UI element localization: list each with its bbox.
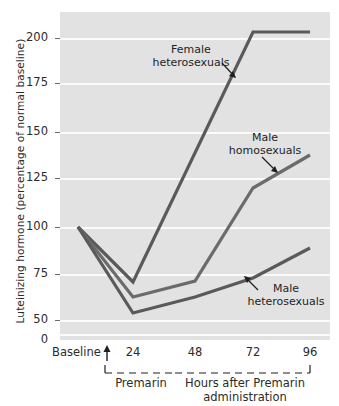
gridline-75: [60, 274, 330, 276]
series-label-male-het-line1: Male: [273, 282, 299, 295]
series-label-male-heterosexuals: Male heterosexuals: [243, 283, 329, 308]
x-tick-48: 48: [181, 347, 209, 359]
y-tick-labels: 200 175 150 125 100 75 50 0: [0, 0, 56, 406]
caption-premarin: Premarin: [105, 377, 177, 391]
y-tickmark-150: [55, 132, 60, 133]
y-tick-75: 75: [0, 268, 48, 280]
hours-bracket: [175, 365, 310, 373]
gridline-50: [60, 320, 330, 322]
premarin-bracket: [105, 365, 175, 373]
chart-figure: Luteinizing hormone (percentage of norma…: [0, 0, 339, 406]
x-tick-96: 96: [296, 347, 324, 359]
y-tick-125: 125: [0, 172, 48, 184]
series-label-male-homosexuals: Male homosexuals: [222, 132, 308, 157]
y-tickmark-125: [55, 178, 60, 179]
series-label-male-homo-line2: homosexuals: [229, 144, 301, 157]
y-tick-150: 150: [0, 126, 48, 138]
x-tick-72: 72: [239, 347, 267, 359]
caption-hours-after-premarin: Hours after Premarin administration: [178, 377, 312, 404]
y-tickmark-200: [55, 38, 60, 39]
series-label-male-het-line2: heterosexuals: [247, 295, 324, 308]
y-tick-50: 50: [0, 314, 48, 326]
caption-hours-line1: Hours after Premarin: [185, 376, 305, 390]
y-tick-175: 175: [0, 77, 48, 89]
y-tick-200: 200: [0, 32, 48, 44]
y-tick-100: 100: [0, 221, 48, 233]
gridline-200: [60, 38, 330, 40]
gridline-100: [60, 227, 330, 229]
gridline-125: [60, 178, 330, 180]
series-label-male-homo-line1: Male: [252, 131, 278, 144]
x-tick-24: 24: [119, 347, 147, 359]
gridline-175: [60, 83, 330, 85]
axis-break-line: [60, 334, 330, 336]
x-tick-baseline: Baseline: [52, 347, 108, 359]
y-tickmark-75: [55, 274, 60, 275]
y-tick-0: 0: [0, 334, 48, 346]
y-tickmark-100: [55, 227, 60, 228]
y-tickmark-175: [55, 83, 60, 84]
series-label-female-line2: heterosexuals: [152, 56, 229, 69]
y-tickmark-50: [55, 320, 60, 321]
series-label-female-heterosexuals: Female heterosexuals: [148, 44, 234, 69]
caption-hours-line2: administration: [203, 390, 287, 404]
series-label-female-line1: Female: [171, 43, 211, 56]
